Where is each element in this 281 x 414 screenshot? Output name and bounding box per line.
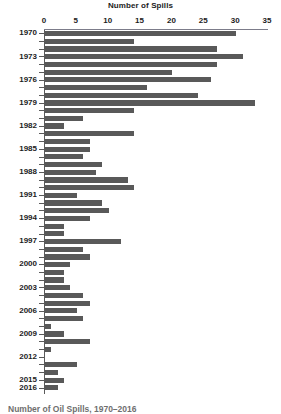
y-tick-mark: [39, 287, 44, 288]
bar-1974: [45, 62, 217, 67]
y-tick-label-1988: 1988: [19, 167, 37, 176]
bar-row: [0, 161, 281, 169]
y-tick-mark: [39, 49, 44, 50]
y-tick-label-2016: 2016: [19, 383, 37, 392]
bar-1971: [45, 39, 134, 44]
bar-row: [0, 69, 281, 77]
x-tick-label-20: 20: [167, 16, 176, 25]
x-tick-label-25: 25: [199, 16, 208, 25]
bar-row: 1982: [0, 122, 281, 130]
bar-row: 2012: [0, 353, 281, 361]
bar-row: 1997: [0, 238, 281, 246]
bar-1980: [45, 108, 134, 113]
bar-1994: [45, 216, 90, 221]
y-tick-mark: [39, 87, 44, 88]
bar-row: 1979: [0, 99, 281, 107]
y-tick-mark: [39, 195, 44, 196]
bar-row: [0, 369, 281, 377]
y-tick-label-1976: 1976: [19, 75, 37, 84]
bar-2003: [45, 285, 70, 290]
y-tick-label-1982: 1982: [19, 121, 37, 130]
y-tick-mark: [39, 280, 44, 281]
bar-row: [0, 92, 281, 100]
bar-row: [0, 38, 281, 46]
bar-row: [0, 184, 281, 192]
y-tick-mark: [39, 141, 44, 142]
y-tick-mark: [39, 357, 44, 358]
bar-row: 1988: [0, 169, 281, 177]
bar-row: 2015: [0, 377, 281, 385]
y-tick-mark: [39, 203, 44, 204]
x-tick-label-5: 5: [74, 16, 78, 25]
bar-row: [0, 253, 281, 261]
bar-2015: [45, 378, 64, 383]
bar-row: [0, 223, 281, 231]
y-tick-mark: [39, 311, 44, 312]
bar-1984: [45, 139, 90, 144]
bar-1986: [45, 154, 83, 159]
bar-1982: [45, 123, 64, 128]
bar-row: [0, 292, 281, 300]
y-tick-mark: [39, 187, 44, 188]
bar-row: [0, 315, 281, 323]
bar-row: [0, 45, 281, 53]
bar-2007: [45, 316, 83, 321]
y-tick-mark: [39, 157, 44, 158]
bar-2000: [45, 262, 70, 267]
bar-1985: [45, 147, 90, 152]
bar-1976: [45, 77, 211, 82]
bar-row: [0, 130, 281, 138]
y-tick-mark: [39, 380, 44, 381]
bar-1992: [45, 200, 102, 205]
bar-1972: [45, 46, 217, 51]
y-tick-mark: [39, 264, 44, 265]
y-tick-label-2003: 2003: [19, 283, 37, 292]
bar-row: 2003: [0, 284, 281, 292]
bar-row: 2016: [0, 384, 281, 392]
bar-2011: [45, 347, 51, 352]
bar-1978: [45, 93, 198, 98]
y-tick-label-1970: 1970: [19, 28, 37, 37]
bar-2009: [45, 331, 64, 336]
bar-row: [0, 338, 281, 346]
bar-row: [0, 207, 281, 215]
bar-1998: [45, 247, 83, 252]
y-tick-mark: [39, 218, 44, 219]
bar-2005: [45, 301, 90, 306]
bar-row: [0, 300, 281, 308]
y-tick-mark: [39, 226, 44, 227]
bar-1996: [45, 231, 64, 236]
bar-row: 1970: [0, 30, 281, 38]
y-tick-mark: [39, 56, 44, 57]
bar-row: [0, 153, 281, 161]
y-tick-mark: [39, 64, 44, 65]
y-tick-mark: [39, 103, 44, 104]
y-tick-label-1973: 1973: [19, 52, 37, 61]
y-tick-label-1979: 1979: [19, 98, 37, 107]
x-axis-tick-labels: 05101520253035: [0, 16, 281, 27]
bar-row: [0, 230, 281, 238]
y-tick-mark: [39, 172, 44, 173]
y-tick-mark: [39, 72, 44, 73]
chart-caption: Number of Oil Spills, 1970–2016: [8, 404, 137, 414]
bar-1993: [45, 208, 109, 213]
bar-row: 2006: [0, 307, 281, 315]
y-tick-mark: [39, 149, 44, 150]
bar-row: 1985: [0, 146, 281, 154]
y-tick-label-1991: 1991: [19, 190, 37, 199]
bar-row: 1973: [0, 53, 281, 61]
y-tick-mark: [39, 110, 44, 111]
bar-row: 1991: [0, 192, 281, 200]
bar-row: [0, 323, 281, 331]
bar-2001: [45, 270, 64, 275]
bar-1977: [45, 85, 147, 90]
y-tick-label-1997: 1997: [19, 236, 37, 245]
y-tick-label-2006: 2006: [19, 306, 37, 315]
bar-row: [0, 276, 281, 284]
y-tick-mark: [39, 126, 44, 127]
x-tick-label-15: 15: [135, 16, 144, 25]
bar-2016: [45, 385, 58, 390]
y-tick-mark: [39, 257, 44, 258]
y-tick-label-2000: 2000: [19, 259, 37, 268]
y-tick-mark: [39, 341, 44, 342]
